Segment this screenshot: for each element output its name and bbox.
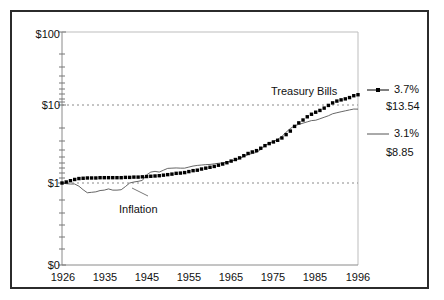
legend-marker-treasury-bills — [367, 86, 389, 94]
y-tick-label-100: $100 — [18, 28, 60, 40]
y-tick-label-1: $1 — [18, 177, 60, 189]
x-tick-label-1926: 1926 — [43, 271, 83, 283]
series-treasury-bills-markers — [60, 93, 359, 185]
x-tick-label-1985: 1985 — [295, 271, 335, 283]
x-tick-label-1965: 1965 — [211, 271, 251, 283]
legend-value-treasury-bills: $13.54 — [386, 100, 420, 112]
x-tick-label-1945: 1945 — [127, 271, 167, 283]
annotation-leader-inflation — [132, 188, 148, 196]
chart-plot-area — [0, 0, 444, 300]
annotation-inflation: Inflation — [119, 203, 158, 215]
chart-figure: $100 $10 $1 $0 1926 1935 1945 1955 1965 … — [0, 0, 444, 300]
y-tick-label-0: $0 — [18, 259, 60, 271]
annotation-treasury-bills: Treasury Bills — [271, 85, 337, 97]
series-inflation-line — [62, 109, 358, 193]
x-tick-label-1975: 1975 — [253, 271, 293, 283]
x-tick-label-1955: 1955 — [169, 271, 209, 283]
x-tick-label-1935: 1935 — [85, 271, 125, 283]
legend-marker-inflation — [367, 130, 389, 138]
legend-rate-inflation: 3.1% — [394, 127, 419, 139]
x-tick-label-1996: 1996 — [338, 271, 378, 283]
legend-rate-treasury-bills: 3.7% — [394, 83, 419, 95]
plot-frame-lines — [62, 32, 358, 265]
legend-value-inflation: $8.85 — [386, 146, 414, 158]
y-tick-label-10: $10 — [18, 99, 60, 111]
